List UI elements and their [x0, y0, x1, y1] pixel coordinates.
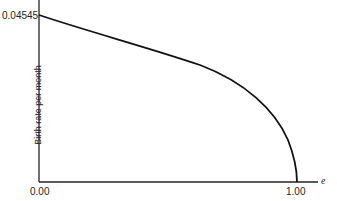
y-axis-label: Birth rate per month — [33, 45, 43, 165]
chart-plot — [0, 0, 337, 201]
y-tick-top: 0.04545 — [2, 10, 38, 21]
x-tick-1: 1.00 — [286, 186, 305, 197]
x-tick-0: 0.00 — [30, 186, 49, 197]
birth-rate-curve — [39, 15, 297, 182]
x-axis-label: e — [321, 175, 325, 186]
